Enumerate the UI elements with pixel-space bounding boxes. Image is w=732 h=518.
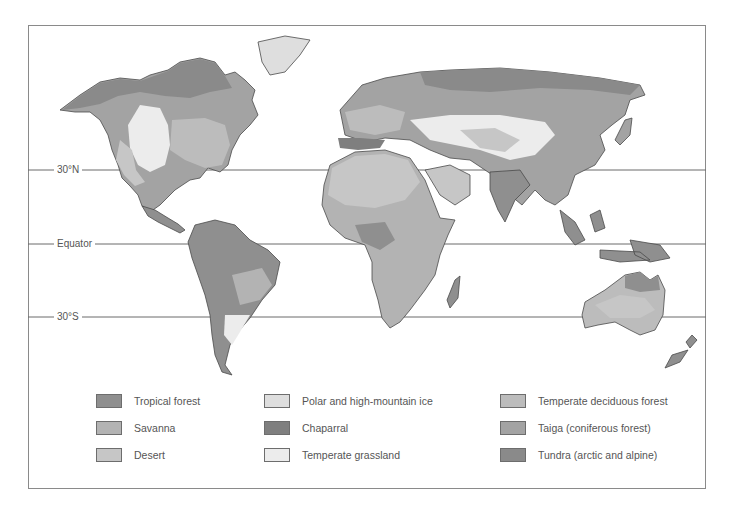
legend-item-taiga: Taiga (coniferous forest): [500, 421, 651, 435]
legend-label: Savanna: [134, 422, 175, 434]
tundra-swatch-icon: [500, 448, 526, 462]
region-med-chaparral: [338, 138, 385, 150]
legend-label: Desert: [134, 449, 165, 461]
islands-new-zealand: [665, 335, 697, 368]
chaparral-swatch-icon: [264, 421, 290, 435]
tropical-forest-swatch-icon: [96, 394, 122, 408]
island-japan: [615, 118, 632, 145]
legend-label: Tundra (arctic and alpine): [538, 449, 657, 461]
legend-item-desert: Desert: [96, 448, 165, 462]
polar-ice-swatch-icon: [264, 394, 290, 408]
island-madagascar: [447, 276, 460, 308]
legend-item-temperate-grassland: Temperate grassland: [264, 448, 400, 462]
legend-label: Tropical forest: [134, 395, 200, 407]
legend-label: Temperate grassland: [302, 449, 400, 461]
legend-label: Temperate deciduous forest: [538, 395, 668, 407]
legend-item-savanna: Savanna: [96, 421, 175, 435]
continent-south-america: [188, 220, 280, 375]
continent-central-america: [142, 206, 185, 233]
savanna-swatch-icon: [96, 421, 122, 435]
latitude-label-equator: Equator: [54, 238, 95, 250]
legend-label: Taiga (coniferous forest): [538, 422, 651, 434]
legend-item-tropical-forest: Tropical forest: [96, 394, 200, 408]
latitude-label-30s: 30°S: [54, 311, 82, 323]
world-biome-map: [0, 0, 732, 518]
legend-label: Polar and high-mountain ice: [302, 395, 433, 407]
latitude-label-30n: 30°N: [54, 164, 82, 176]
temperate-grassland-swatch-icon: [264, 448, 290, 462]
legend-item-polar-ice: Polar and high-mountain ice: [264, 394, 433, 408]
continent-greenland: [258, 36, 310, 75]
desert-swatch-icon: [96, 448, 122, 462]
legend-item-chaparral: Chaparral: [264, 421, 348, 435]
legend-item-temperate-deciduous-forest: Temperate deciduous forest: [500, 394, 668, 408]
region-australia-tropical: [625, 272, 660, 292]
legend-label: Chaparral: [302, 422, 348, 434]
islands-se-asia: [560, 210, 670, 262]
legend-item-tundra: Tundra (arctic and alpine): [500, 448, 657, 462]
temperate-deciduous-forest-swatch-icon: [500, 394, 526, 408]
taiga-swatch-icon: [500, 421, 526, 435]
